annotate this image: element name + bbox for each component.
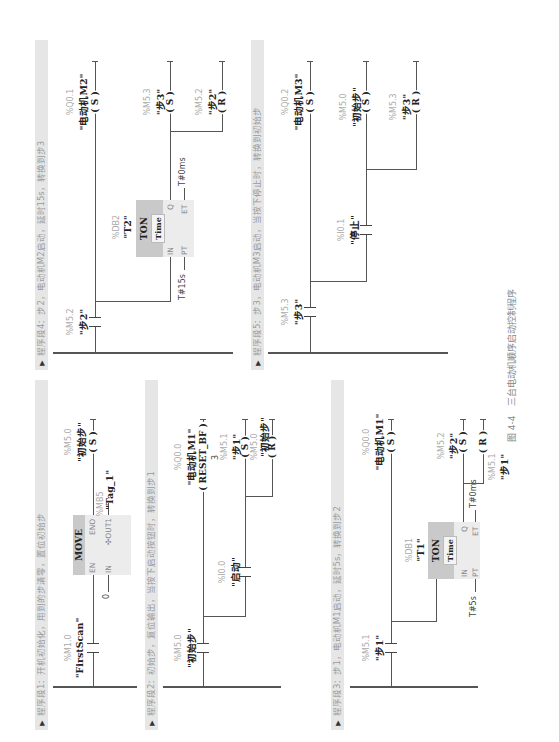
pin-q: Q [460, 526, 469, 532]
collapse-arrow-icon[interactable]: ▶ [332, 716, 344, 730]
coil-name: "初始步" [257, 417, 271, 457]
rung-end [219, 61, 225, 62]
contact-address: %M1.0 [64, 634, 73, 661]
coil-set-motor-m1[interactable]: ( S ) [386, 430, 396, 453]
move-in-value: 0 [102, 594, 111, 599]
coil-address: %M5.0 [64, 428, 73, 455]
contact-step1[interactable] [385, 643, 397, 653]
contact-stop[interactable] [360, 225, 372, 235]
contact-firstscan[interactable] [87, 643, 99, 653]
timer-in-wire [170, 257, 171, 302]
pin-en: EN [88, 563, 97, 573]
contact-step3[interactable] [304, 307, 316, 317]
power-rail [350, 687, 478, 689]
coil-set-motor-m2[interactable]: ( S ) [90, 90, 100, 113]
coil-set-initial-step[interactable]: ( S ) [88, 430, 98, 453]
branch [391, 621, 437, 622]
rung-end [92, 61, 98, 62]
rung-end [480, 419, 486, 420]
timer-name: "T2" [122, 215, 133, 239]
timer-subtype: Time [443, 536, 457, 565]
contact-initial-step[interactable] [197, 643, 209, 653]
segment-2-header[interactable]: ▶程序段2：初始步，复位输出，当按下启动按钮时，转换到步1 [145, 380, 158, 730]
coil-address: %Q0.1 [66, 89, 75, 116]
reset-count: 3 [211, 455, 220, 460]
q-split [170, 131, 222, 132]
pin-eno: ENO [88, 519, 97, 535]
collapse-arrow-icon[interactable]: ▶ [36, 356, 48, 370]
contact-name: "启动" [228, 557, 242, 587]
contact-name: "FirstScan" [74, 618, 85, 679]
coil-name: "步2" [205, 89, 219, 116]
segment-3-title: 程序段3：步1，电动机M1启动，延时5s，转换到步2 [332, 506, 342, 716]
coil-address: %Q0.0 [174, 444, 183, 471]
rung-end [307, 61, 313, 62]
pin-in: IN [104, 565, 113, 573]
pt-wire [184, 257, 185, 270]
move-out-name: "Tag_1" [104, 470, 115, 510]
timer-db: %DB2 [112, 215, 121, 239]
contact-name: "步3" [291, 299, 305, 326]
coil-reset-step1[interactable]: ( R ) [478, 430, 488, 454]
coil-address: %M5.2 [195, 88, 204, 115]
coil-address: %M5.0 [339, 93, 348, 120]
coil-name: "初始步" [74, 422, 88, 462]
rung-end [200, 419, 206, 420]
timer-type: TON [430, 522, 442, 579]
timer-type: TON [138, 200, 150, 257]
coil-address: %M5.3 [389, 93, 398, 120]
segment-4-header[interactable]: ▶程序段4：步2，电动机M2启动，延时15s，转换到步3 [35, 40, 48, 370]
move-title: MOVE [73, 515, 85, 575]
in-wire [108, 575, 109, 592]
collapse-arrow-icon[interactable]: ▶ [36, 716, 48, 730]
coil-address: %Q0.0 [362, 429, 371, 456]
timer-subtype: Time [151, 214, 165, 243]
coil-set-motor-m3[interactable]: ( S ) [305, 90, 315, 113]
q-split [463, 483, 483, 484]
rung-end [167, 61, 173, 62]
contact-address: %M5.3 [281, 298, 290, 325]
pin-pt: PT [471, 568, 480, 577]
coil-name: "电动机M3" [291, 73, 305, 130]
segment-5-title: 程序段5：步3，电动机M3启动，当按下停止时，转换到初始步 [252, 107, 262, 356]
coil-address: %M5.3 [143, 88, 152, 115]
coil-address: %M5.2 [437, 432, 446, 459]
contact-step2[interactable] [89, 317, 101, 327]
branch-split [245, 496, 273, 497]
power-rail [268, 353, 448, 355]
coil-name: "电动机M1" [372, 413, 386, 470]
timer-name: "T1" [415, 538, 426, 562]
pt-wire [475, 579, 476, 592]
pin-out1: ✣OUT1 [104, 518, 113, 545]
coil-address: %Q0.2 [281, 89, 290, 116]
coil-name: "步1" [229, 434, 243, 461]
segment-2-title: 程序段2：初始步，复位输出，当按下启动按钮时，转换到步1 [146, 471, 156, 716]
power-rail [53, 687, 137, 689]
branch-split [366, 169, 416, 170]
rung-end [388, 419, 394, 420]
contact-name: "初始步" [184, 628, 198, 668]
collapse-arrow-icon[interactable]: ▶ [252, 356, 264, 370]
segment-3-header[interactable]: ▶程序段3：步1，电动机M1启动，延时5s，转换到步2 [331, 380, 344, 730]
coil-name: "电动机M1" [184, 428, 198, 485]
pin-q: Q [166, 204, 175, 210]
pin-in: IN [166, 247, 175, 255]
branch-rung-2 [416, 62, 417, 170]
timer-db: %DB1 [405, 538, 414, 562]
coil-name: "步3" [399, 94, 413, 121]
move-block[interactable]: MOVE [73, 515, 131, 575]
rung-end [242, 419, 248, 420]
coil-name: "电动机M2" [76, 73, 90, 130]
et-wire [184, 188, 185, 200]
segment-5-header[interactable]: ▶程序段5：步3，电动机M3启动，当按下停止时，转换到初始步 [251, 40, 264, 370]
coil-reset-bf[interactable]: ( RESET_BF ) [198, 422, 208, 492]
coil-address: %M5.1 [488, 453, 497, 480]
coil-address: %M5.1 [220, 433, 229, 460]
collapse-arrow-icon[interactable]: ▶ [146, 716, 158, 730]
segment-4-title: 程序段4：步2，电动机M2启动，延时15s，转换到步3 [36, 141, 46, 356]
segment-1-header[interactable]: ▶程序段1：开机初始化，用到的步清零，置位初始步 [35, 380, 48, 730]
contact-address: %I0.1 [337, 219, 346, 242]
pin-in: IN [460, 569, 469, 577]
coil-name: "步3" [153, 89, 167, 116]
rotated-page: ▶程序段1：开机初始化，用到的步清零，置位初始步 %M1.0 "FirstSca… [0, 0, 559, 742]
